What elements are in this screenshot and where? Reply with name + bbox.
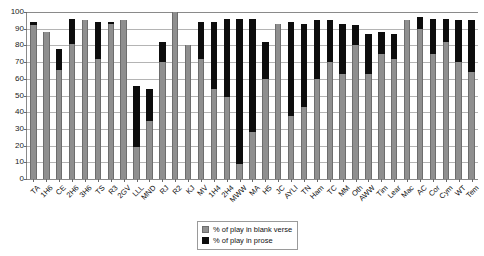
bar-slot (104, 12, 117, 179)
bar-segment-prose (249, 19, 255, 133)
bar-segment-prose (468, 20, 474, 72)
bar-stack[interactable] (365, 34, 371, 179)
bar-segment-blank-verse (365, 74, 371, 179)
bar-stack[interactable] (224, 19, 230, 179)
bar-segment-prose (365, 34, 371, 74)
bar-stack[interactable] (159, 42, 165, 179)
bar-stack[interactable] (236, 19, 242, 179)
bar-slot (40, 12, 53, 179)
bar-stack[interactable] (69, 19, 75, 179)
bar-segment-prose (327, 20, 333, 62)
bar-stack[interactable] (82, 20, 88, 179)
bar-stack[interactable] (417, 17, 423, 179)
bar-segment-blank-verse (236, 164, 242, 179)
gray-swatch-icon (202, 226, 209, 233)
bar-slot (143, 12, 156, 179)
bar-segment-blank-verse (249, 132, 255, 179)
bar-segment-blank-verse (288, 116, 294, 179)
bar-segment-blank-verse (430, 54, 436, 179)
bar-slot (375, 12, 388, 179)
bar-segment-prose (378, 32, 384, 54)
chart-legend: % of play in blank verse % of play in pr… (197, 221, 298, 250)
bar-segment-prose (198, 22, 204, 59)
bar-segment-blank-verse (339, 74, 345, 179)
bar-stack[interactable] (198, 22, 204, 179)
bar-stack[interactable] (133, 86, 139, 180)
bar-segment-blank-verse (443, 42, 449, 179)
bar-slot (414, 12, 427, 179)
bar-segment-blank-verse (120, 20, 126, 179)
bar-segment-blank-verse (69, 44, 75, 179)
bar-stack[interactable] (211, 22, 217, 179)
y-axis-tick-label: 20 (15, 142, 24, 150)
bar-segment-prose (236, 19, 242, 164)
bar-stack[interactable] (95, 22, 101, 179)
bar-stack[interactable] (455, 20, 461, 179)
bar-stack[interactable] (262, 42, 268, 179)
bar-stack[interactable] (391, 34, 397, 179)
bar-slot (452, 12, 465, 179)
bar-segment-blank-verse (262, 79, 268, 179)
bar-stack[interactable] (249, 19, 255, 179)
bar-stack[interactable] (430, 19, 436, 179)
bar-segment-prose (455, 20, 461, 62)
bar-segment-blank-verse (159, 62, 165, 179)
bar-stack[interactable] (352, 25, 358, 179)
x-axis-tick-label: Tem (465, 184, 480, 199)
bar-stack[interactable] (30, 22, 36, 179)
bar-slot (91, 12, 104, 179)
bar-segment-prose (146, 89, 152, 121)
bar-segment-blank-verse (455, 62, 461, 179)
bar-stack[interactable] (275, 24, 281, 179)
bar-segment-prose (211, 22, 217, 89)
bar-stack[interactable] (443, 19, 449, 179)
bar-segment-blank-verse (108, 24, 114, 179)
bar-segment-blank-verse (82, 20, 88, 179)
bar-segment-blank-verse (211, 89, 217, 179)
bar-stack[interactable] (404, 20, 410, 179)
bar-segment-prose (56, 49, 62, 71)
bar-segment-prose (224, 19, 230, 97)
bar-slot (426, 12, 439, 179)
bar-stack[interactable] (339, 24, 345, 179)
bar-segment-prose (352, 25, 358, 45)
bar-stack[interactable] (120, 20, 126, 179)
legend-item-prose: % of play in prose (202, 235, 292, 246)
bar-segment-blank-verse (378, 54, 384, 179)
bar-segment-prose (314, 20, 320, 78)
bar-stack[interactable] (301, 24, 307, 179)
bar-stack[interactable] (468, 20, 474, 179)
bar-stack[interactable] (172, 12, 178, 179)
bar-slot (182, 12, 195, 179)
plot-area: 0102030405060708090100 (26, 12, 478, 180)
bar-segment-blank-verse (198, 59, 204, 179)
bar-stack[interactable] (185, 45, 191, 179)
x-axis-tick-label: MA (248, 184, 261, 197)
bar-stack[interactable] (56, 49, 62, 179)
bar-stack[interactable] (108, 22, 114, 179)
bar-stack[interactable] (314, 20, 320, 179)
x-axis-tick-label: TS (94, 184, 106, 196)
bar-segment-blank-verse (56, 70, 62, 179)
bar-stack[interactable] (288, 22, 294, 179)
bar-stack[interactable] (327, 20, 333, 179)
legend-label-prose: % of play in prose (213, 237, 273, 245)
bar-slot (246, 12, 259, 179)
bar-stack[interactable] (43, 32, 49, 179)
bar-slot (272, 12, 285, 179)
bar-stack[interactable] (378, 32, 384, 179)
x-axis-labels: TA1H6CE2H63H6TSR32GVLLLMNDRJR2KJMV1H42H4… (26, 180, 478, 226)
bar-segment-prose (288, 22, 294, 116)
bar-slot (169, 12, 182, 179)
bar-slot (465, 12, 478, 179)
x-axis-tick-label: Mac (400, 184, 415, 199)
bar-slot (388, 12, 401, 179)
y-axis-tick-label: 70 (15, 58, 24, 66)
y-axis-tick-label: 100 (11, 8, 24, 16)
y-axis-tick-label: 10 (15, 158, 24, 166)
bar-slot (233, 12, 246, 179)
bar-segment-blank-verse (391, 59, 397, 179)
x-axis-tick-label: KJ (185, 184, 197, 196)
bar-stack[interactable] (146, 89, 152, 179)
bar-slot (66, 12, 79, 179)
